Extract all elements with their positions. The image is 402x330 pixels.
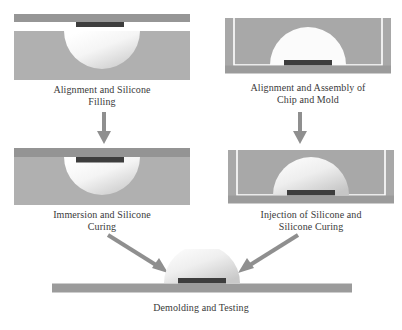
chip (284, 60, 332, 66)
step-3-diagram (14, 148, 190, 205)
step-4-diagram (228, 150, 394, 206)
step-1-svg (14, 14, 190, 80)
step-2-svg (225, 18, 391, 76)
arrow-left-down-icon (92, 110, 116, 146)
chip (76, 157, 124, 163)
step-4-caption: Injection of Silicone and Silicone Curin… (220, 209, 402, 232)
step-4-caption-line2: Silicone Curing (220, 221, 402, 233)
step-3-caption-line1: Immersion and Silicone (10, 209, 194, 221)
substrate-bar (52, 284, 352, 293)
step-5-caption: Demolding and Testing (101, 302, 301, 314)
arrow-right-down-icon (288, 110, 312, 146)
step-5-caption-line1: Demolding and Testing (101, 302, 301, 314)
chip (76, 22, 124, 27)
step-1-caption-line1: Alignment and Silicone (10, 84, 194, 96)
substrate-bar (228, 196, 394, 204)
top-mold-bar (14, 148, 190, 157)
step-4-svg (228, 150, 394, 206)
step-1-diagram (14, 14, 190, 80)
step-5-diagram (52, 249, 352, 297)
step-2-caption: Alignment and Assembly of Chip and Mold (218, 82, 398, 105)
step-2-diagram (225, 18, 391, 76)
process-flow-figure: Alignment and Silicone Filling Alignment… (0, 0, 402, 330)
step-2-caption-line1: Alignment and Assembly of (218, 82, 398, 94)
step-2-caption-line2: Chip and Mold (218, 94, 398, 106)
lens-dome (164, 249, 240, 283)
substrate-bar (225, 66, 391, 74)
step-3-caption-line2: Curing (10, 221, 194, 233)
step-5-svg (52, 249, 352, 297)
step-3-caption: Immersion and Silicone Curing (10, 209, 194, 232)
chip (287, 190, 335, 196)
chip (178, 278, 226, 284)
step-1-caption: Alignment and Silicone Filling (10, 84, 194, 107)
step-4-caption-line1: Injection of Silicone and (220, 209, 402, 221)
step-1-caption-line2: Filling (10, 96, 194, 108)
step-3-svg (14, 148, 190, 205)
top-mold-bar (14, 14, 190, 22)
